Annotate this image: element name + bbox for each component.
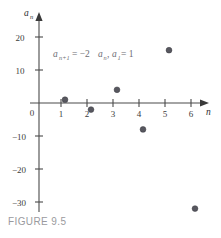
data-point — [166, 47, 172, 53]
origin-label: 0 — [30, 108, 35, 118]
data-point — [62, 97, 68, 103]
y-tick-label: 10 — [16, 66, 26, 76]
formula-equals-1: = −2 — [72, 49, 90, 59]
y-axis-arrow-icon — [35, 12, 42, 21]
formula-base-2: a — [98, 49, 103, 59]
formula-equals-2: = 1 — [121, 49, 134, 59]
x-tick-label: 5 — [163, 109, 168, 119]
x-tick-label: 6 — [189, 109, 194, 119]
x-axis-arrow-icon — [200, 99, 209, 106]
formula-sub-1: n+1 — [59, 54, 70, 61]
data-point-group — [62, 47, 198, 211]
y-axis-label-subscript: n — [30, 13, 33, 20]
x-tick-label: 4 — [137, 109, 142, 119]
y-axis-label-base: a — [24, 8, 29, 18]
y-tick-group: 20 10 −10 −20 −30 — [12, 33, 43, 208]
data-point — [192, 206, 198, 212]
y-tick-label: −30 — [12, 198, 27, 208]
x-tick-label: 3 — [111, 109, 116, 119]
x-tick-label: 1 — [59, 109, 64, 119]
formula-base-1: a — [53, 49, 58, 59]
scatter-plot: a_n a n n 20 10 −10 −20 −30 0 — [0, 0, 221, 212]
y-tick-label: 20 — [16, 33, 26, 43]
plot-svg: a_n a n n 20 10 −10 −20 −30 0 — [0, 0, 221, 212]
x-tick-group: 1 2 3 4 5 6 — [59, 99, 194, 119]
figure-caption: FIGURE 9.5 — [8, 216, 66, 227]
figure-container: a_n a n n 20 10 −10 −20 −30 0 — [0, 0, 221, 238]
formula-annotation: a n+1 = −2 a n , a 1 = 1 — [53, 49, 134, 61]
data-point — [88, 107, 94, 113]
y-tick-label: −10 — [12, 132, 27, 142]
formula-comma: , — [107, 49, 109, 59]
x-axis-label: n — [206, 107, 211, 117]
data-point — [140, 126, 146, 132]
y-tick-label: −20 — [12, 165, 27, 175]
formula-base-3: a — [112, 49, 117, 59]
data-point — [114, 87, 120, 93]
